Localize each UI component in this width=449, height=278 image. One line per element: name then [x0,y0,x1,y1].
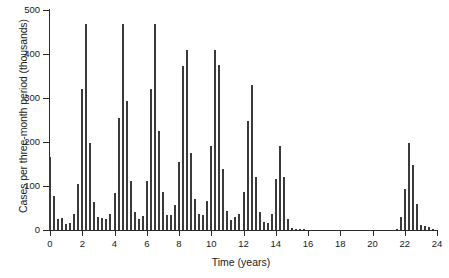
x-tick-mark [50,231,51,236]
y-tick-mark [43,98,49,99]
bar [49,157,51,230]
x-tick-mark [211,231,212,236]
bar [416,204,418,230]
bar [247,121,249,230]
x-tick-label: 14 [264,239,288,249]
y-tick-mark [43,230,49,231]
x-tick-mark [308,231,309,236]
bar [291,228,293,230]
bar [202,215,204,230]
x-tick-label: 24 [425,239,449,249]
bar [218,65,220,230]
x-tick-label: 8 [167,239,191,249]
bar [170,215,172,230]
bar [166,215,168,230]
measles-cases-bar-chart: Cases per three-month period (thousands)… [0,0,449,278]
bar [299,229,301,230]
bar [234,217,236,230]
x-tick-mark [82,231,83,236]
bar [222,169,224,230]
bar [255,177,257,230]
bar [61,218,63,230]
bar [134,212,136,230]
y-tick-label: 500 [0,5,40,15]
x-tick-mark [147,231,148,236]
bar [251,85,253,230]
x-tick-label: 20 [361,239,385,249]
bar [287,219,289,230]
bar [154,24,156,230]
x-tick-label: 0 [38,239,62,249]
bar [259,212,261,230]
y-tick-label: 200 [0,137,40,147]
bar [190,153,192,230]
x-tick-label: 4 [103,239,127,249]
x-tick-mark [276,231,277,236]
y-axis-title: Cases per three-month period (thousands) [17,0,29,236]
x-tick-mark [405,231,406,236]
x-tick-mark [115,231,116,236]
bar [303,229,305,230]
bar [73,214,75,230]
bar [283,177,285,230]
x-tick-label: 16 [296,239,320,249]
bar [420,225,422,230]
x-tick-label: 18 [328,239,352,249]
bar [230,220,232,230]
y-tick-mark [43,142,49,143]
bar [85,24,87,230]
bar [412,165,414,230]
x-tick-mark [373,231,374,236]
bar [214,50,216,230]
x-tick-label: 2 [70,239,94,249]
bar [238,214,240,230]
bar [158,131,160,230]
x-tick-mark [437,231,438,236]
bar [118,118,120,230]
bar [186,50,188,230]
y-tick-label: 100 [0,181,40,191]
bar [295,229,297,230]
bar [396,229,398,230]
bar-series [50,10,438,230]
bar [89,143,91,230]
x-tick-mark [179,231,180,236]
bar [263,222,265,230]
bar [428,227,430,230]
bar [162,192,164,230]
bar [77,184,79,230]
x-tick-label: 6 [135,239,159,249]
bar [97,217,99,230]
bar [142,216,144,230]
bar [65,224,67,230]
bar [114,193,116,230]
bar [69,223,71,230]
bar [109,214,111,230]
y-tick-mark [43,10,49,11]
bar [432,229,434,230]
bar [150,89,152,230]
x-tick-label: 10 [199,239,223,249]
y-tick-label: 300 [0,93,40,103]
bar [93,202,95,230]
x-tick-mark [244,231,245,236]
bar [198,214,200,230]
bar [146,181,148,230]
bar [400,217,402,230]
bar [226,211,228,230]
bar [53,196,55,230]
x-tick-mark [340,231,341,236]
y-tick-mark [43,54,49,55]
bar [178,162,180,230]
bar [174,205,176,230]
bar [81,89,83,230]
bar [271,214,273,230]
bar [424,226,426,230]
bar [243,192,245,230]
y-tick-label: 400 [0,49,40,59]
x-tick-label: 12 [232,239,256,249]
bar [130,181,132,230]
bar [194,199,196,230]
bar [210,146,212,230]
bar [105,219,107,230]
